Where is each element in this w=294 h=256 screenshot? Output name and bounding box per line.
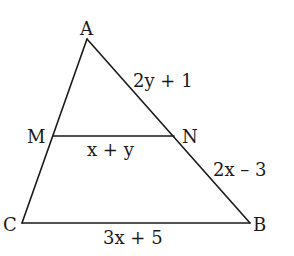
vertex-label-c: C [3,214,17,235]
triangle-diagram: A M N C B 2y + 1 x + y 2x – 3 3x + 5 [0,0,294,256]
vertex-label-a: A [79,18,94,39]
segment-label-mn: x + y [87,139,135,160]
segment-label-nb: 2x – 3 [213,159,267,180]
vertex-label-m: M [27,126,45,147]
edge-ab [87,39,250,223]
segment-label-an: 2y + 1 [133,70,193,91]
vertex-label-n: N [182,126,198,147]
vertex-label-b: B [253,214,266,235]
segment-label-cb: 3x + 5 [103,227,163,248]
